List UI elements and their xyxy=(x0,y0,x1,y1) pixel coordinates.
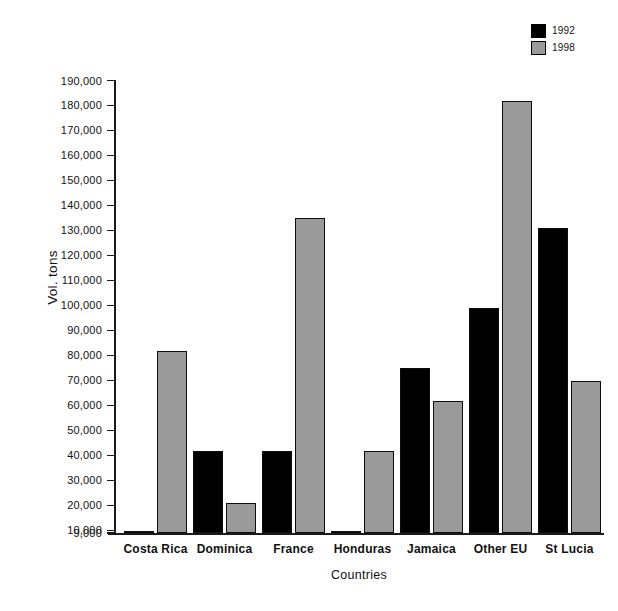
y-axis-tick: 180,000 xyxy=(107,105,114,107)
bar-honduras-1992 xyxy=(331,531,361,533)
bar-jamaica-1992 xyxy=(400,368,430,533)
bar-dominica-1992 xyxy=(193,451,223,534)
bar-dominica-1998 xyxy=(226,503,256,533)
y-axis-tick: 20,000 xyxy=(107,505,114,507)
y-axis-tick-label: 50,000 xyxy=(67,424,102,436)
bar-costa-rica-1992 xyxy=(124,531,154,533)
bar-chart: 19921998 Vol. tons 190,000180,000170,000… xyxy=(0,0,618,611)
y-axis-tick-label: 40,000 xyxy=(67,449,102,461)
y-axis-tick: 60,000 xyxy=(107,405,114,407)
y-axis-tick: 150,000 xyxy=(107,180,114,182)
chart-legend: 19921998 xyxy=(531,24,575,55)
x-axis-title: Countries xyxy=(114,568,604,582)
y-axis-tick: 10,000 xyxy=(107,530,114,532)
bar-st-lucia-1992 xyxy=(538,228,568,533)
bar-group xyxy=(535,82,604,533)
y-axis-tick: 80,000 xyxy=(107,355,114,357)
y-axis-tick-label: 130,000 xyxy=(61,224,102,236)
legend-item-1998: 1998 xyxy=(531,41,575,55)
y-axis-tick-label: 120,000 xyxy=(61,249,102,261)
x-axis-label-st-lucia: St Lucia xyxy=(524,542,616,556)
bar-france-1992 xyxy=(262,451,292,534)
y-axis-tick-label: 80,000 xyxy=(67,349,102,361)
y-axis-tick-label: 30,000 xyxy=(67,474,102,486)
y-axis-tick-label: 100,000 xyxy=(61,299,102,311)
y-axis-tick: 140,000 xyxy=(107,205,114,207)
y-axis-tick: 9,000 xyxy=(107,532,114,534)
legend-label: 1992 xyxy=(552,24,575,38)
y-axis-tick-label: 70,000 xyxy=(67,374,102,386)
bar-st-lucia-1998 xyxy=(571,381,601,534)
y-axis-tick: 130,000 xyxy=(107,230,114,232)
bar-france-1998 xyxy=(295,218,325,533)
bar-group xyxy=(466,82,535,533)
plot-area: 190,000180,000170,000160,000150,000140,0… xyxy=(114,80,604,535)
bar-group xyxy=(397,82,466,533)
y-axis-tick-label: 20,000 xyxy=(67,499,102,511)
y-axis-tick: 170,000 xyxy=(107,130,114,132)
y-axis-title: Vol. tons xyxy=(45,218,60,338)
y-axis-tick-label: 9,000 xyxy=(73,527,102,539)
bar-costa-rica-1998 xyxy=(157,351,187,534)
y-axis-tick-label: 190,000 xyxy=(61,75,102,87)
y-axis-tick-label: 180,000 xyxy=(61,99,102,111)
y-axis-tick: 190,000 xyxy=(107,80,114,82)
y-axis-line xyxy=(114,80,116,535)
y-axis-tick-label: 110,000 xyxy=(62,274,102,286)
bar-group xyxy=(190,82,259,533)
bar-honduras-1998 xyxy=(364,451,394,534)
y-axis-tick: 90,000 xyxy=(107,330,114,332)
x-axis-line xyxy=(108,533,604,535)
y-axis-tick: 110,000 xyxy=(107,280,114,282)
y-axis-tick: 30,000 xyxy=(107,480,114,482)
y-axis-tick: 160,000 xyxy=(107,155,114,157)
y-axis-tick-label: 140,000 xyxy=(61,199,102,211)
bar-group xyxy=(259,82,328,533)
y-axis-tick: 120,000 xyxy=(107,255,114,257)
y-axis-tick: 70,000 xyxy=(107,380,114,382)
bar-jamaica-1998 xyxy=(433,401,463,534)
y-axis-tick: 40,000 xyxy=(107,455,114,457)
y-axis-tick: 50,000 xyxy=(107,430,114,432)
y-axis-tick-label: 170,000 xyxy=(61,124,102,136)
bar-group xyxy=(121,82,190,533)
legend-label: 1998 xyxy=(552,41,575,55)
bar-other-eu-1992 xyxy=(469,308,499,533)
y-axis-tick-label: 160,000 xyxy=(61,149,102,161)
bar-other-eu-1998 xyxy=(502,101,532,534)
y-axis-tick-label: 90,000 xyxy=(67,324,102,336)
legend-swatch-icon xyxy=(531,24,546,38)
bar-group xyxy=(328,82,397,533)
legend-item-1992: 1992 xyxy=(531,24,575,38)
y-axis-tick-label: 150,000 xyxy=(61,174,102,186)
y-axis-tick-label: 60,000 xyxy=(67,399,102,411)
legend-swatch-icon xyxy=(531,41,546,55)
y-axis-tick: 100,000 xyxy=(107,305,114,307)
